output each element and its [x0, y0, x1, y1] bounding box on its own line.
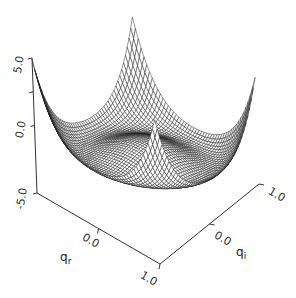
- surface-plot: [0, 0, 296, 298]
- qr-axis-label: qr: [60, 250, 71, 266]
- qi-axis-label: qi: [236, 245, 246, 261]
- wireframe-mesh: [32, 17, 255, 189]
